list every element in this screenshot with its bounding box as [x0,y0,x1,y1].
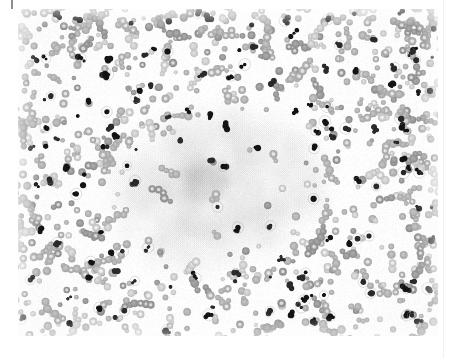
micrograph-canvas [18,9,438,336]
screenshot-root: Cytology micrograph Romanowsky (grayscal… [0,0,456,358]
cytology-micrograph [18,9,438,336]
scan-edge-band [443,0,444,358]
scan-tick-mark [11,0,13,9]
